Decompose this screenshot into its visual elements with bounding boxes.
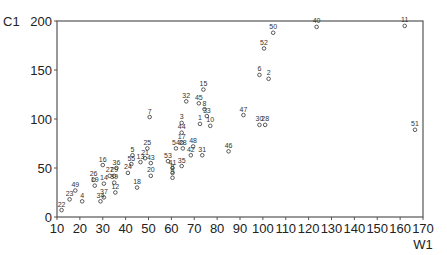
point-label: 14 (100, 174, 108, 181)
y-tick-label: 50 (38, 161, 52, 176)
point-marker-icon (93, 184, 97, 188)
point-marker-icon (242, 113, 246, 117)
point-label: 42 (187, 146, 195, 153)
x-tick-label: 170 (412, 221, 434, 236)
x-tick-label: 20 (73, 221, 87, 236)
point-label: 36 (113, 159, 121, 166)
point-label: 2 (267, 69, 271, 76)
y-tick-label: 150 (30, 63, 52, 78)
point-marker-icon (60, 208, 64, 212)
point-label: 28 (261, 115, 269, 122)
point-marker-icon (114, 191, 118, 195)
point-marker-icon (403, 24, 407, 28)
point-marker-icon (149, 174, 153, 178)
data-point: 4 (80, 192, 84, 203)
data-point: 22 (58, 201, 66, 212)
point-label: 16 (99, 156, 107, 163)
point-marker-icon (227, 150, 231, 154)
data-point: 11 (401, 16, 408, 27)
point-marker-icon (74, 189, 78, 193)
data-point: 6 (257, 65, 261, 76)
point-label: 37 (100, 188, 108, 195)
point-label: 51 (411, 120, 419, 127)
x-axis-title: W1 (413, 237, 433, 252)
point-marker-icon (413, 128, 417, 132)
x-tick-label: 160 (389, 221, 411, 236)
data-points: 2223494343719261416273929361224555131821… (58, 16, 419, 212)
point-marker-icon (258, 123, 262, 127)
point-label: 6 (257, 65, 261, 72)
point-label: 15 (200, 80, 208, 87)
point-label: 18 (133, 178, 141, 185)
point-label: 46 (225, 142, 233, 149)
point-label: 25 (143, 139, 151, 146)
scatter-chart: 1020304050607080901001101201301401501601… (0, 0, 447, 255)
point-label: 50 (269, 23, 277, 30)
point-label: 32 (182, 92, 190, 99)
point-marker-icon (258, 73, 262, 77)
data-point: 52 (260, 39, 268, 50)
point-label: 1 (198, 114, 202, 121)
point-marker-icon (149, 161, 153, 165)
point-label: 43 (147, 154, 155, 161)
y-tick-label: 200 (30, 14, 52, 29)
y-axis-title: C1 (3, 14, 20, 29)
point-label: 22 (58, 201, 66, 208)
point-marker-icon (267, 77, 271, 81)
data-point: 9 (171, 168, 175, 179)
data-point: 40 (313, 17, 321, 28)
data-point: 23 (66, 190, 74, 201)
point-marker-icon (184, 100, 188, 104)
data-point: 46 (225, 142, 233, 153)
point-label: 10 (206, 116, 214, 123)
point-label: 47 (240, 106, 248, 113)
point-label: 3 (180, 113, 184, 120)
x-tick-label: 40 (118, 221, 132, 236)
point-marker-icon (135, 186, 139, 190)
data-point: 43 (147, 154, 155, 165)
data-point: 10 (206, 116, 214, 127)
point-label: 23 (66, 190, 74, 197)
point-label: 31 (198, 146, 206, 153)
point-label: 4 (80, 192, 84, 199)
x-tick-label: 60 (164, 221, 178, 236)
point-marker-icon (197, 102, 201, 106)
point-label: 20 (147, 166, 155, 173)
point-marker-icon (271, 31, 275, 35)
point-marker-icon (148, 115, 152, 119)
x-tick-label: 50 (141, 221, 155, 236)
point-label: 48 (189, 137, 197, 144)
x-tick-label: 90 (233, 221, 247, 236)
point-marker-icon (208, 124, 212, 128)
point-marker-icon (181, 147, 185, 151)
point-label: 12 (111, 183, 119, 190)
data-point: 31 (198, 146, 206, 157)
point-marker-icon (189, 153, 193, 157)
point-label: 24 (124, 163, 132, 170)
data-point: 16 (99, 156, 107, 167)
data-point: 19 (91, 176, 99, 187)
point-label: 52 (260, 39, 268, 46)
point-label: 7 (148, 108, 152, 115)
point-marker-icon (198, 122, 202, 126)
x-tick-label: 150 (366, 221, 388, 236)
point-marker-icon (174, 147, 178, 151)
data-point: 47 (240, 106, 248, 117)
data-point: 1 (198, 114, 202, 125)
point-marker-icon (262, 47, 266, 51)
point-marker-icon (263, 123, 267, 127)
point-marker-icon (80, 200, 84, 204)
point-marker-icon (139, 160, 143, 164)
x-tick-label: 120 (298, 221, 320, 236)
data-point: 7 (148, 108, 152, 119)
data-point: 50 (269, 23, 277, 34)
data-point: 12 (111, 183, 119, 194)
data-point: 18 (133, 178, 141, 189)
axes: 1020304050607080901001101201301401501601… (3, 14, 434, 253)
point-marker-icon (99, 200, 103, 204)
data-point: 20 (147, 166, 155, 177)
point-marker-icon (171, 176, 175, 180)
data-point: 28 (261, 115, 269, 126)
data-point: 15 (200, 80, 208, 91)
point-label: 40 (313, 17, 321, 24)
